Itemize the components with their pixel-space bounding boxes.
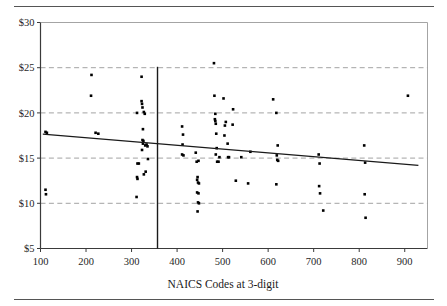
figure-container: $5$10$15$20$25$30 1002003004005006007008… xyxy=(0,0,447,306)
trend-line-path xyxy=(43,134,419,165)
grid-lines xyxy=(41,68,428,204)
data-point xyxy=(136,178,139,181)
data-point xyxy=(276,144,279,147)
data-point xyxy=(272,98,275,101)
x-tick-label-800: 800 xyxy=(351,256,367,267)
data-point xyxy=(146,145,149,148)
y-tick-label-25: $25 xyxy=(19,62,35,73)
data-point xyxy=(275,183,278,186)
data-point xyxy=(90,74,93,77)
data-point xyxy=(140,100,143,103)
data-point xyxy=(196,178,199,181)
data-points xyxy=(44,62,409,219)
data-point xyxy=(198,202,201,205)
data-point xyxy=(46,131,49,134)
data-point xyxy=(363,193,366,196)
data-point xyxy=(143,113,146,116)
data-point xyxy=(141,103,144,106)
data-point xyxy=(317,153,320,156)
x-axis-tick-labels: 100200300400500600700800900 xyxy=(33,256,413,267)
data-point xyxy=(194,151,197,154)
y-tick-label-10: $10 xyxy=(19,198,35,209)
data-point xyxy=(182,154,185,157)
data-point xyxy=(143,173,146,176)
data-point xyxy=(197,160,200,163)
y-tick-label-15: $15 xyxy=(19,153,35,164)
data-point xyxy=(228,156,231,159)
data-point xyxy=(142,140,145,143)
data-point xyxy=(94,131,97,134)
data-point xyxy=(318,162,321,165)
x-tick-label-900: 900 xyxy=(397,256,413,267)
data-point xyxy=(322,209,325,212)
data-point xyxy=(214,153,217,156)
data-point xyxy=(182,133,185,136)
data-point xyxy=(213,94,216,97)
data-point xyxy=(407,94,410,97)
data-point xyxy=(136,112,139,115)
data-point xyxy=(215,132,218,135)
data-point xyxy=(147,158,150,161)
data-point xyxy=(224,124,227,127)
data-point xyxy=(142,128,145,131)
x-tick-label-100: 100 xyxy=(33,256,49,267)
data-point xyxy=(140,75,143,78)
data-point xyxy=(275,112,278,115)
data-point xyxy=(217,160,220,163)
trend-line xyxy=(43,134,419,165)
x-tick-label-300: 300 xyxy=(124,256,140,267)
data-point xyxy=(277,160,280,163)
data-point xyxy=(222,97,225,100)
data-point xyxy=(213,62,216,65)
data-point xyxy=(231,123,234,126)
data-point xyxy=(226,142,229,145)
data-point xyxy=(214,122,217,125)
data-point xyxy=(235,179,238,182)
data-point xyxy=(364,161,367,164)
x-axis-title: NAICS Codes at 3-digit xyxy=(168,278,280,291)
x-tick-label-400: 400 xyxy=(169,256,185,267)
y-tick-label-30: $30 xyxy=(19,17,35,28)
data-point xyxy=(138,162,141,165)
x-tick-label-600: 600 xyxy=(260,256,276,267)
data-point xyxy=(275,154,278,157)
data-point xyxy=(196,176,199,179)
data-point xyxy=(218,156,221,159)
data-point xyxy=(141,106,144,109)
x-tick-label-500: 500 xyxy=(215,256,231,267)
data-point xyxy=(318,185,321,188)
data-point xyxy=(225,121,228,124)
y-axis-tick-labels: $5$10$15$20$25$30 xyxy=(19,17,35,254)
data-point xyxy=(364,216,367,219)
plot-axes xyxy=(41,23,428,249)
axis-ticks xyxy=(37,23,405,253)
data-point xyxy=(319,192,322,195)
data-point xyxy=(197,192,200,195)
data-point xyxy=(214,113,217,116)
y-tick-label-5: $5 xyxy=(24,243,35,254)
data-point xyxy=(223,134,226,137)
data-point xyxy=(135,196,138,199)
data-point xyxy=(240,156,243,159)
data-point xyxy=(196,210,199,213)
data-point xyxy=(141,149,144,152)
data-point xyxy=(44,188,47,191)
data-point xyxy=(144,170,147,173)
data-point xyxy=(181,125,184,128)
data-point xyxy=(232,108,235,111)
x-tick-label-200: 200 xyxy=(78,256,94,267)
data-point xyxy=(198,182,201,185)
scatter-plot: $5$10$15$20$25$30 1002003004005006007008… xyxy=(0,0,447,306)
data-point xyxy=(45,193,48,196)
data-point xyxy=(90,94,93,97)
data-point xyxy=(363,144,366,147)
y-tick-label-20: $20 xyxy=(19,108,35,119)
data-point xyxy=(214,120,217,123)
data-point xyxy=(97,132,100,135)
x-tick-label-700: 700 xyxy=(306,256,322,267)
data-point xyxy=(247,182,250,185)
